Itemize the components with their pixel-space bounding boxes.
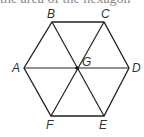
vertex-label-a: A [11,61,20,75]
hexagon-diagram: B C A D G F E [0,0,144,137]
vertex-label-e: E [99,118,108,132]
vertex-label-d: D [132,61,141,75]
vertex-label-g: G [82,55,91,69]
vertex-label-f: F [46,118,54,132]
vertex-label-b: B [47,7,55,21]
vertex-label-c: C [101,7,110,21]
center-point-g [75,66,79,70]
